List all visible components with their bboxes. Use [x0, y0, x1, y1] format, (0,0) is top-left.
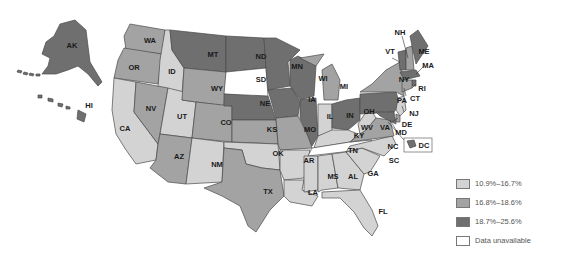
label-IA: IA — [308, 95, 316, 104]
label-KY: KY — [354, 131, 364, 140]
label-AK: AK — [67, 41, 78, 50]
label-PA: PA — [397, 96, 407, 105]
state-RI — [412, 80, 416, 86]
label-NJ: NJ — [409, 109, 419, 118]
label-OH: OH — [363, 107, 374, 116]
label-IN: IN — [346, 111, 354, 120]
label-SC: SC — [389, 156, 400, 165]
label-WI: WI — [318, 74, 327, 83]
legend-swatch-low — [456, 179, 470, 189]
label-FL: FL — [378, 207, 388, 216]
label-KS: KS — [267, 125, 277, 134]
state-HI — [38, 95, 86, 122]
legend-label-high: 18.7%–25.6% — [475, 217, 522, 226]
label-CA: CA — [120, 124, 131, 133]
label-VA: VA — [380, 123, 390, 132]
legend-item-na: Data unavailable — [456, 231, 531, 250]
label-NC: NC — [388, 142, 399, 151]
label-HI: HI — [85, 101, 93, 110]
label-MO: MO — [304, 125, 316, 134]
label-OR: OR — [128, 63, 140, 72]
legend-swatch-high — [456, 217, 470, 227]
label-UT: UT — [177, 112, 187, 121]
label-MD: MD — [395, 128, 407, 137]
label-ME: ME — [418, 47, 429, 56]
label-WA: WA — [144, 36, 157, 45]
label-DC: DC — [419, 141, 430, 150]
legend-label-low: 10.9%–16.7% — [475, 179, 522, 188]
legend-item-low: 10.9%–16.7% — [456, 174, 531, 193]
label-AL: AL — [348, 172, 358, 181]
label-AZ: AZ — [174, 152, 184, 161]
legend-label-na: Data unavailable — [475, 236, 531, 245]
label-RI: RI — [418, 84, 426, 93]
legend-label-mid: 16.8%–18.6% — [475, 198, 522, 207]
label-NH: NH — [395, 28, 406, 37]
label-NV: NV — [146, 104, 156, 113]
legend-swatch-na — [456, 236, 470, 246]
state-NY — [360, 62, 404, 96]
label-TX: TX — [263, 187, 273, 196]
legend-item-high: 18.7%–25.6% — [456, 212, 531, 231]
legend-item-mid: 16.8%–18.6% — [456, 193, 531, 212]
label-GA: GA — [367, 169, 379, 178]
label-MS: MS — [327, 172, 338, 181]
label-ID: ID — [168, 67, 176, 76]
label-MN: MN — [291, 62, 303, 71]
label-LA: LA — [308, 188, 319, 197]
state-AK — [42, 20, 102, 86]
label-SD: SD — [256, 75, 267, 84]
label-VT: VT — [385, 47, 395, 56]
legend-swatch-mid — [456, 198, 470, 208]
label-CT: CT — [410, 94, 420, 103]
label-WV: WV — [361, 123, 373, 132]
label-NE: NE — [260, 99, 270, 108]
label-CO: CO — [220, 118, 231, 127]
label-ND: ND — [256, 52, 267, 61]
label-MA: MA — [422, 61, 434, 70]
label-OK: OK — [272, 149, 284, 158]
label-WY: WY — [211, 84, 223, 93]
legend: 10.9%–16.7% 16.8%–18.6% 18.7%–25.6% Data… — [456, 174, 531, 250]
label-NM: NM — [211, 160, 223, 169]
state-AK-islands — [17, 70, 40, 76]
state-FL — [322, 190, 378, 236]
label-TN: TN — [348, 146, 358, 155]
label-IL: IL — [327, 112, 334, 121]
label-NY: NY — [399, 75, 409, 84]
label-MI: MI — [340, 82, 348, 91]
label-AR: AR — [304, 156, 315, 165]
label-MT: MT — [208, 50, 219, 59]
